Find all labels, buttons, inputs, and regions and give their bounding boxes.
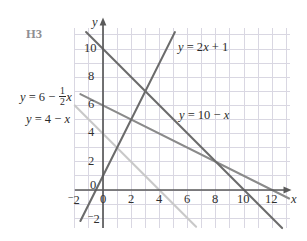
y-tick-neg2: −2: [88, 211, 100, 227]
y-tick-2: 2: [88, 154, 94, 169]
y-tick-10: 10: [84, 41, 97, 56]
x-tick-10: 10: [237, 192, 250, 207]
y-tick-0: 0: [90, 178, 96, 193]
equation-label-10-minus-x: y = 10 − x: [179, 108, 229, 123]
x-tick-4: 4: [156, 192, 162, 207]
x-tick-0: 0: [100, 192, 106, 207]
x-tick-2: 2: [128, 192, 134, 207]
y-tick-8: 8: [88, 69, 94, 84]
y-tick-6: 6: [88, 97, 94, 112]
equation-label-4-minus-x: y = 4 − x: [26, 112, 70, 127]
graph-figure: H3 y x 10 8 6 4 2 0 −2 −2 0 2 4 6 8 10 1…: [0, 0, 307, 241]
x-axis-name: x: [291, 192, 297, 207]
x-tick-8: 8: [212, 192, 218, 207]
y-axis-arrowhead: [100, 18, 107, 26]
x-tick-neg2: −2: [68, 192, 80, 208]
equation-label-6-minus-half-x: y = 6 − 12x: [20, 86, 72, 107]
x-tick-12: 12: [265, 192, 278, 207]
y-tick-4: 4: [88, 125, 94, 140]
equation-label-2x-plus-1: y = 2x + 1: [178, 40, 228, 55]
x-tick-6: 6: [184, 192, 190, 207]
exercise-code-label: H3: [26, 27, 42, 42]
y-axis-name: y: [92, 15, 98, 30]
